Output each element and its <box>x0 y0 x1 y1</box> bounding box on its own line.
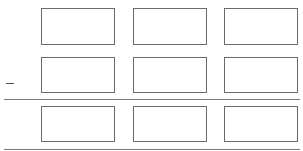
input-box-r3-c3[interactable] <box>224 106 298 142</box>
input-box-r1-c3[interactable] <box>224 8 298 45</box>
input-box-r3-c2[interactable] <box>133 106 207 142</box>
divider-line <box>4 99 300 100</box>
input-box-r2-c3[interactable] <box>224 57 298 93</box>
minus-sign-icon <box>6 83 14 84</box>
input-box-r2-c1[interactable] <box>41 57 115 93</box>
input-box-r3-c1[interactable] <box>41 106 115 142</box>
result-line <box>4 149 300 150</box>
input-box-r1-c2[interactable] <box>133 8 207 45</box>
input-box-r2-c2[interactable] <box>133 57 207 93</box>
input-box-r1-c1[interactable] <box>41 8 115 45</box>
